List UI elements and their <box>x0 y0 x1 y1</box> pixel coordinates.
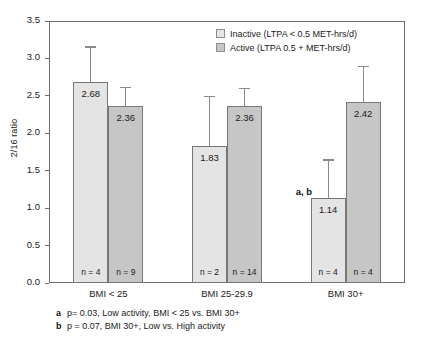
y-axis-tick-mark <box>45 208 49 209</box>
error-bar-stem <box>209 96 210 146</box>
y-axis-tick-mark <box>45 95 49 96</box>
bar: 2.36n = 9 <box>108 106 143 283</box>
chart-legend: Inactive (LTPA < 0.5 MET-hrs/d) Active (… <box>216 27 357 55</box>
y-axis-tick-label: 3.5 <box>27 14 40 25</box>
bar-sample-size-label: n = 4 <box>347 267 380 277</box>
y-axis-title: 2/16 ratio <box>9 83 19 193</box>
legend-label-inactive: Inactive (LTPA < 0.5 MET-hrs/d) <box>230 29 357 39</box>
bar: 2.42n = 4 <box>346 102 381 283</box>
bar-value-label: 2.36 <box>228 112 261 123</box>
legend-label-active: Active (LTPA 0.5 + MET-hrs/d) <box>230 43 350 53</box>
bar-chart-figure: 2/16 ratio 0.00.51.01.52.02.53.03.5 2.68… <box>0 0 426 346</box>
y-axis-tick-label: 2.0 <box>27 126 40 137</box>
x-axis-category-label: BMI 25-29.9 <box>167 288 287 299</box>
error-bar-cap <box>323 159 334 160</box>
bar-value-label: 2.68 <box>74 88 107 99</box>
error-bar-cap <box>120 87 131 88</box>
error-bar-stem <box>328 159 329 197</box>
error-bar-stem <box>90 46 91 82</box>
x-axis-category-label: BMI 30+ <box>286 288 406 299</box>
y-axis-tick-mark <box>45 170 49 171</box>
footnote-b: b p = 0.07, BMI 30+, Low vs. High activi… <box>56 321 240 334</box>
error-bar-stem <box>244 88 245 107</box>
bar: 2.36n = 14 <box>227 106 262 283</box>
footnote-text-b: p = 0.07, BMI 30+, Low vs. High activity <box>67 321 225 331</box>
y-axis-tick-mark <box>45 283 49 284</box>
bar-sample-size-label: n = 14 <box>228 267 261 277</box>
footnote-text-a: p= 0.03, Low activity, BMI < 25 vs. BMI … <box>67 308 240 318</box>
bar-value-label: 1.83 <box>193 152 226 163</box>
y-axis-tick-label: 3.0 <box>27 51 40 62</box>
significance-annotation: a, b <box>296 186 312 197</box>
y-axis-tick-label: 1.0 <box>27 201 40 212</box>
y-axis-tick-label: 1.5 <box>27 164 40 175</box>
bar-value-label: 2.42 <box>347 108 380 119</box>
error-bar-cap <box>358 66 369 67</box>
bar-value-label: 1.14 <box>312 204 345 215</box>
bar-sample-size-label: n = 9 <box>109 267 142 277</box>
y-axis-tick-mark <box>45 133 49 134</box>
footnote-key-b: b <box>56 321 67 331</box>
legend-swatch-icon-inactive <box>216 29 225 38</box>
bar-sample-size-label: n = 4 <box>74 267 107 277</box>
y-axis-tick-mark <box>45 21 49 22</box>
y-axis-tick-label: 0.5 <box>27 239 40 250</box>
bar: 2.68n = 4 <box>73 82 108 283</box>
error-bar-stem <box>125 87 126 106</box>
y-axis-tick-label: 0.0 <box>27 276 40 287</box>
error-bar-stem <box>363 66 364 102</box>
footnote-a: a p= 0.03, Low activity, BMI < 25 vs. BM… <box>56 308 240 321</box>
bar: 1.83n = 2 <box>192 146 227 283</box>
chart-footnotes: a p= 0.03, Low activity, BMI < 25 vs. BM… <box>56 308 240 334</box>
bar: 1.14n = 4 <box>311 198 346 283</box>
y-axis-tick-mark <box>45 245 49 246</box>
error-bar-cap <box>204 96 215 97</box>
error-bar-cap <box>85 46 96 47</box>
bar-value-label: 2.36 <box>109 112 142 123</box>
legend-swatch-icon-active <box>216 43 225 52</box>
error-bar-cap <box>239 88 250 89</box>
footnote-key-a: a <box>56 308 67 318</box>
bar-sample-size-label: n = 4 <box>312 267 345 277</box>
y-axis-tick-label: 2.5 <box>27 89 40 100</box>
y-axis-tick-mark <box>45 58 49 59</box>
bar-sample-size-label: n = 2 <box>193 267 226 277</box>
legend-item-active: Active (LTPA 0.5 + MET-hrs/d) <box>216 41 357 54</box>
legend-item-inactive: Inactive (LTPA < 0.5 MET-hrs/d) <box>216 27 357 40</box>
x-axis-category-label: BMI < 25 <box>48 288 168 299</box>
